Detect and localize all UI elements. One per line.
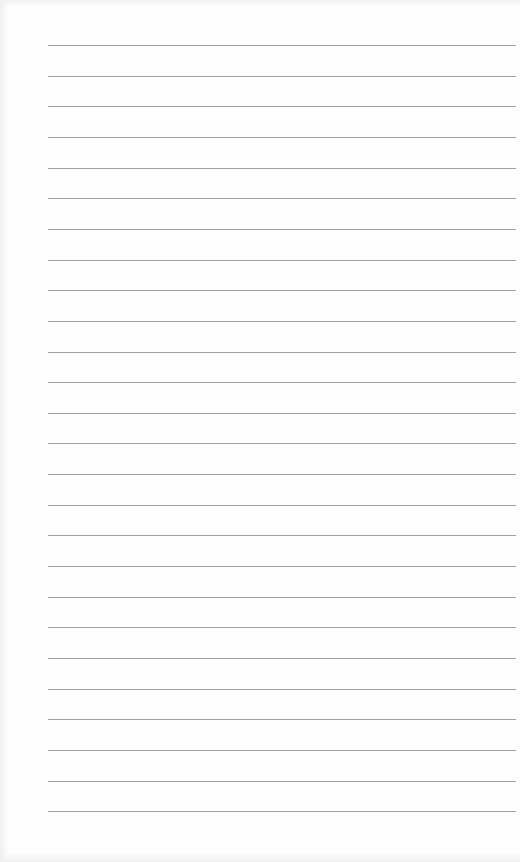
ruled-line — [48, 198, 516, 199]
page-edge-top — [0, 0, 520, 6]
ruled-line — [48, 566, 516, 567]
ruled-line — [48, 689, 516, 690]
ruled-line — [48, 321, 516, 322]
ruled-line — [48, 413, 516, 414]
ruled-line — [48, 597, 516, 598]
ruled-line — [48, 45, 516, 46]
ruled-line — [48, 658, 516, 659]
ruled-line — [48, 76, 516, 77]
ruled-line — [48, 750, 516, 751]
ruled-line — [48, 505, 516, 506]
page-edge-bottom — [0, 852, 520, 862]
ruled-line — [48, 443, 516, 444]
ruled-line — [48, 627, 516, 628]
ruled-line — [48, 781, 516, 782]
ruled-line — [48, 719, 516, 720]
ruled-line — [48, 290, 516, 291]
ruled-line — [48, 811, 516, 812]
ruled-line — [48, 168, 516, 169]
ruled-line — [48, 382, 516, 383]
ruled-line — [48, 352, 516, 353]
ruled-line — [48, 137, 516, 138]
ruled-line — [48, 106, 516, 107]
ruled-line — [48, 535, 516, 536]
lined-paper-page — [0, 0, 520, 862]
ruled-line — [48, 474, 516, 475]
ruled-line — [48, 260, 516, 261]
ruled-line — [48, 229, 516, 230]
page-edge-left — [0, 0, 8, 862]
